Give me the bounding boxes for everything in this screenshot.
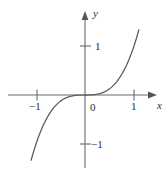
x-axis-arrowhead [148, 92, 157, 99]
y-tick-label-pos1: 1 [95, 41, 101, 52]
origin-label: 0 [90, 102, 96, 113]
plot-canvas [0, 0, 167, 179]
cubic-function-figure: y x 0 −1 1 1 −1 [0, 0, 167, 179]
y-axis-arrowhead [82, 11, 89, 20]
x-tick-label-pos1: 1 [131, 101, 137, 112]
y-axis-label: y [93, 8, 98, 19]
x-axis-label: x [157, 100, 162, 111]
y-tick-label-neg1: −1 [91, 139, 103, 150]
x-tick-label-neg1: −1 [29, 101, 41, 112]
